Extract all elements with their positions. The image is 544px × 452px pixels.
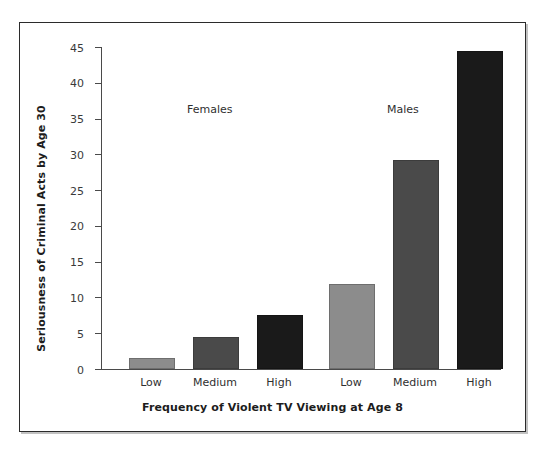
bar-males-low[interactable]: [329, 284, 375, 369]
category-label-males-high: High: [447, 377, 511, 388]
y-tick-40: 40: [95, 83, 101, 84]
y-axis-title: Seriousness of Criminal Acts by Age 30: [32, 23, 50, 433]
y-tick-0: 0: [95, 369, 101, 370]
category-label-females-low: Low: [119, 377, 183, 388]
y-tick-label-10: 10: [70, 292, 84, 303]
y-tick-label-0: 0: [77, 364, 84, 375]
y-tick-25: 25: [95, 190, 101, 191]
y-tick-35: 35: [95, 119, 101, 120]
x-axis-title: Frequency of Violent TV Viewing at Age 8: [20, 401, 525, 414]
bar-males-high[interactable]: [457, 51, 503, 369]
x-axis-title-text: Frequency of Violent TV Viewing at Age 8: [142, 401, 403, 414]
category-label-females-medium: Medium: [183, 377, 247, 388]
y-tick-30: 30: [95, 154, 101, 155]
bar-females-high[interactable]: [257, 315, 303, 369]
y-tick-label-35: 35: [70, 114, 84, 125]
y-tick-label-20: 20: [70, 221, 84, 232]
y-tick-20: 20: [95, 226, 101, 227]
category-label-males-medium: Medium: [383, 377, 447, 388]
group-label-females: Females: [187, 104, 233, 115]
y-tick-label-30: 30: [70, 149, 84, 160]
group-label-males: Males: [387, 104, 419, 115]
y-tick-45: 45: [95, 47, 101, 48]
bar-females-low[interactable]: [129, 358, 175, 369]
chart-figure-frame: Seriousness of Criminal Acts by Age 30 0…: [19, 22, 526, 432]
y-tick-15: 15: [95, 262, 101, 263]
category-label-females-high: High: [247, 377, 311, 388]
y-tick-label-5: 5: [77, 328, 84, 339]
bar-males-medium[interactable]: [393, 160, 439, 370]
y-tick-label-45: 45: [70, 42, 84, 53]
x-axis-line: [101, 369, 501, 370]
y-axis-line: [101, 47, 102, 369]
y-tick-label-40: 40: [70, 78, 84, 89]
y-tick-10: 10: [95, 297, 101, 298]
y-axis-title-text: Seriousness of Criminal Acts by Age 30: [35, 105, 48, 352]
category-label-males-low: Low: [319, 377, 383, 388]
y-tick-label-15: 15: [70, 257, 84, 268]
bar-females-medium[interactable]: [193, 337, 239, 369]
y-tick-label-25: 25: [70, 185, 84, 196]
y-tick-5: 5: [95, 333, 101, 334]
plot-area: 051015202530354045 LowMediumHighLowMediu…: [101, 47, 501, 369]
